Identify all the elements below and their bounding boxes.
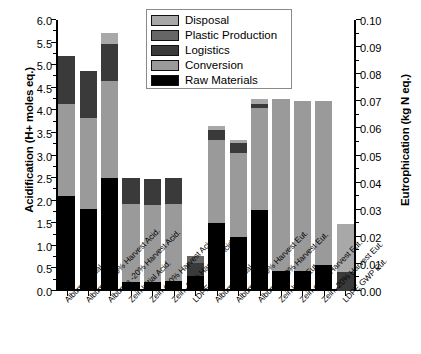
y-tick-left-minor — [53, 53, 56, 54]
legend-swatch — [151, 75, 179, 86]
bar-segment — [251, 108, 268, 210]
y-tick-label-left: 3.0 — [18, 151, 52, 163]
y-tick-label-right: 0.08 — [360, 69, 396, 81]
y-axis-title-right: Eutrophication (kg N eq.) — [399, 35, 411, 245]
legend-item: Plastic Production — [151, 28, 287, 42]
y-tick-label-left: 4.5 — [18, 83, 52, 95]
bar-segment — [230, 143, 247, 153]
legend-item: Disposal — [151, 13, 287, 27]
y-tick-left-minor — [53, 279, 56, 280]
y-tick-label-right: 0.09 — [360, 42, 396, 54]
y-tick-right-minor — [356, 222, 359, 223]
y-tick-label-left: 1.0 — [18, 241, 52, 253]
y-tick-right-minor — [356, 87, 359, 88]
y-tick-right-minor — [356, 114, 359, 115]
y-tick-right-minor — [356, 195, 359, 196]
y-tick-label-left: 0.5 — [18, 263, 52, 275]
legend-label: Plastic Production — [185, 29, 277, 41]
bar-segment — [58, 56, 75, 103]
legend-item: Logistics — [151, 43, 287, 57]
y-tick-left-minor — [53, 211, 56, 212]
bar-segment — [101, 44, 118, 81]
bar-segment — [208, 140, 225, 224]
y-tick-left-minor — [53, 256, 56, 257]
y-tick-left-minor — [53, 234, 56, 235]
y-tick-left-minor — [53, 30, 56, 31]
y-tick-left-minor — [53, 166, 56, 167]
y-tick-label-right: 0.03 — [360, 205, 396, 217]
chart-legend: DisposalPlastic ProductionLogisticsConve… — [146, 9, 292, 89]
y-tick-right-minor — [356, 141, 359, 142]
bar-segment — [80, 71, 97, 119]
y-tick-label-right: 0.06 — [360, 123, 396, 135]
bar-1 — [80, 71, 97, 291]
y-tick-right-minor — [356, 276, 359, 277]
y-tick-label-left: 5.0 — [18, 60, 52, 72]
legend-label: Disposal — [185, 14, 229, 26]
legend-item: Conversion — [151, 58, 287, 72]
bar-segment — [144, 179, 161, 205]
y-tick-label-right: 0.00 — [360, 286, 396, 298]
bar-segment — [208, 130, 225, 140]
y-tick-label-right: 0.10 — [360, 15, 396, 27]
y-tick-left-minor — [53, 98, 56, 99]
legend-label: Logistics — [185, 44, 230, 56]
bar-segment — [165, 178, 182, 204]
y-tick-right-minor — [356, 60, 359, 61]
legend-label: Raw Materials — [185, 74, 258, 86]
y-tick-left-minor — [53, 75, 56, 76]
legend-swatch — [151, 45, 179, 56]
bar-segment — [230, 140, 247, 144]
y-tick-label-left: 1.5 — [18, 218, 52, 230]
legend-swatch — [151, 15, 179, 26]
y-tick-label-left: 2.5 — [18, 173, 52, 185]
legend-swatch — [151, 30, 179, 41]
y-tick-label-left: 4.0 — [18, 105, 52, 117]
y-tick-left-minor — [53, 121, 56, 122]
bar-segment — [58, 104, 75, 197]
y-tick-label-left: 0.0 — [18, 286, 52, 298]
bar-segment — [80, 118, 97, 208]
y-tick-label-right: 0.05 — [360, 151, 396, 163]
bar-segment — [251, 99, 268, 104]
y-tick-label-right: 0.07 — [360, 96, 396, 108]
y-tick-label-left: 6.0 — [18, 15, 52, 27]
y-tick-label-left: 5.5 — [18, 38, 52, 50]
y-tick-label-left: 3.5 — [18, 128, 52, 140]
bar-12 — [315, 101, 332, 291]
y-tick-label-left: 2.0 — [18, 196, 52, 208]
y-tick-left-minor — [53, 143, 56, 144]
bar-segment — [101, 33, 118, 44]
bar-0 — [58, 56, 75, 291]
y-tick-left-minor — [53, 188, 56, 189]
y-tick-right-minor — [356, 168, 359, 169]
y-tick-label-right: 0.04 — [360, 178, 396, 190]
chart-figure: Acidification (H+ moles eq.) Eutrophicat… — [0, 0, 421, 354]
bar-segment — [101, 81, 118, 178]
bar-segment — [208, 126, 225, 130]
legend-label: Conversion — [185, 59, 243, 71]
bar-segment — [230, 153, 247, 237]
bar-segment — [58, 196, 75, 291]
legend-swatch — [151, 60, 179, 71]
legend-item: Raw Materials — [151, 73, 287, 87]
y-tick-right-minor — [356, 33, 359, 34]
bar-segment — [122, 178, 139, 204]
bar-segment — [251, 104, 268, 108]
